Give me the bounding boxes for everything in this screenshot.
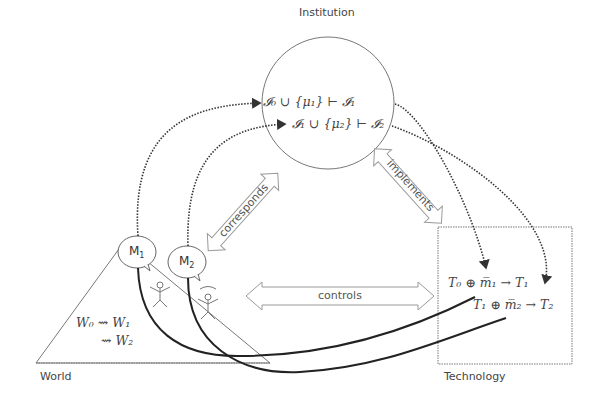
world-label: World — [40, 370, 72, 383]
technology-box — [438, 227, 572, 364]
technology-formula-1: T₀ ⊕ m̅₁ → T₁ — [448, 275, 528, 290]
technology-formula-2: T₁ ⊕ m̅₂ → T₂ — [473, 297, 553, 312]
institution-formula-1: 𝓘₀ ∪ {μ₁} ⊢ 𝓘₁ — [263, 94, 355, 110]
world-formula-1: W₀ ⇝ W₁ — [76, 315, 130, 330]
person-2-icon — [198, 287, 218, 320]
bubble-m2-letter: M — [179, 254, 189, 268]
bubble-m2-sub: 2 — [189, 261, 194, 270]
world-formula-2: ⇝ W₂ — [101, 333, 133, 348]
bubble-m1-label: M1 — [129, 244, 144, 260]
person-1-icon — [150, 282, 170, 307]
i2-to-t2-curve — [392, 126, 547, 283]
bubble-m2-label: M2 — [179, 254, 194, 270]
diagram-canvas — [0, 0, 600, 407]
institution-formula-2: 𝓘₁ ∪ {μ₂} ⊢ 𝓘₂ — [292, 116, 384, 132]
institution-label: Institution — [299, 6, 355, 19]
technology-label: Technology — [444, 370, 506, 383]
bubble-m1-sub: 1 — [139, 251, 144, 260]
bubble-m1-letter: M — [129, 244, 139, 258]
controls-label: controls — [318, 289, 362, 302]
